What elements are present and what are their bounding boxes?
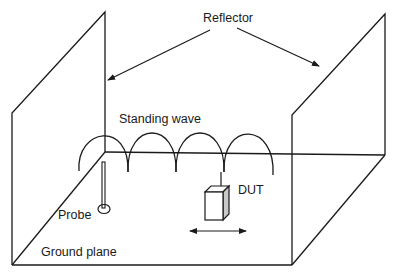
dut-label: DUT [238,183,264,197]
dut-front [205,192,223,220]
reflector-arrow-right [237,28,319,66]
right-reflector-wall [292,14,385,265]
anechoic-test-setup-diagram: Reflector Standing wave DUT Probe Ground… [0,0,395,278]
standing-wave-label: Standing wave [119,112,201,126]
probe-rod [102,162,105,208]
dut-box [205,172,229,220]
ground-plane-label: Ground plane [41,245,117,259]
dut-side [223,186,229,220]
reflector-arrow-left [108,30,210,80]
left-reflector-wall [12,12,105,265]
reflector-arrows [108,28,319,80]
probe-label: Probe [58,208,91,222]
reflector-label: Reflector [203,11,253,25]
probe [98,162,110,214]
